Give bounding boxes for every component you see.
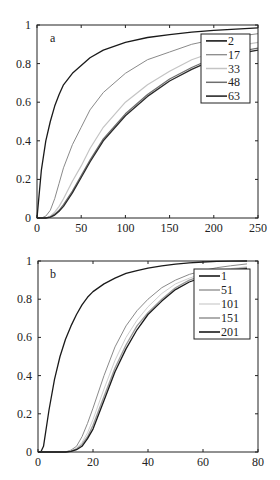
x-tick-label: 60 <box>197 455 209 469</box>
y-tick-label: 0.6 <box>17 330 32 344</box>
legend-label: 101 <box>221 297 239 311</box>
legend-label: 33 <box>228 62 240 76</box>
y-tick-label: 0.6 <box>16 95 31 109</box>
chart-panel-a: 05010015020025000.20.40.60.81a217334863 <box>16 18 267 235</box>
legend: 151101151201 <box>194 269 250 339</box>
x-tick-label: 80 <box>252 455 264 469</box>
chart-panel-b: 02040608000.20.40.60.81b151101151201 <box>17 254 264 469</box>
chart-figure: 05010015020025000.20.40.60.81a217334863 … <box>0 0 280 480</box>
y-tick-label: 0.2 <box>17 407 32 421</box>
legend-label: 1 <box>221 269 227 283</box>
y-tick-label: 0 <box>26 445 32 459</box>
x-tick-label: 200 <box>205 221 223 235</box>
panel-label: b <box>50 267 56 281</box>
y-tick-label: 0.4 <box>16 134 31 148</box>
x-tick-label: 0 <box>35 455 41 469</box>
x-tick-label: 250 <box>249 221 267 235</box>
x-tick-label: 150 <box>161 221 179 235</box>
y-tick-label: 0.8 <box>17 292 32 306</box>
y-tick-label: 0 <box>25 211 31 225</box>
legend-label: 201 <box>221 325 239 339</box>
legend-label: 63 <box>228 89 240 103</box>
legend: 217334863 <box>201 34 250 103</box>
legend-label: 151 <box>221 311 239 325</box>
x-tick-label: 100 <box>116 221 134 235</box>
x-tick-label: 40 <box>142 455 154 469</box>
y-tick-label: 1 <box>25 18 31 32</box>
x-tick-label: 20 <box>87 455 99 469</box>
legend-label: 48 <box>228 75 240 89</box>
x-tick-label: 50 <box>75 221 87 235</box>
x-tick-label: 0 <box>34 221 40 235</box>
y-tick-label: 0.4 <box>17 369 32 383</box>
legend-label: 17 <box>228 48 240 62</box>
y-tick-label: 0.8 <box>16 57 31 71</box>
y-tick-label: 0.2 <box>16 172 31 186</box>
y-tick-label: 1 <box>26 254 32 268</box>
panel-label: a <box>50 31 56 45</box>
legend-label: 51 <box>221 283 233 297</box>
legend-label: 2 <box>228 34 234 48</box>
